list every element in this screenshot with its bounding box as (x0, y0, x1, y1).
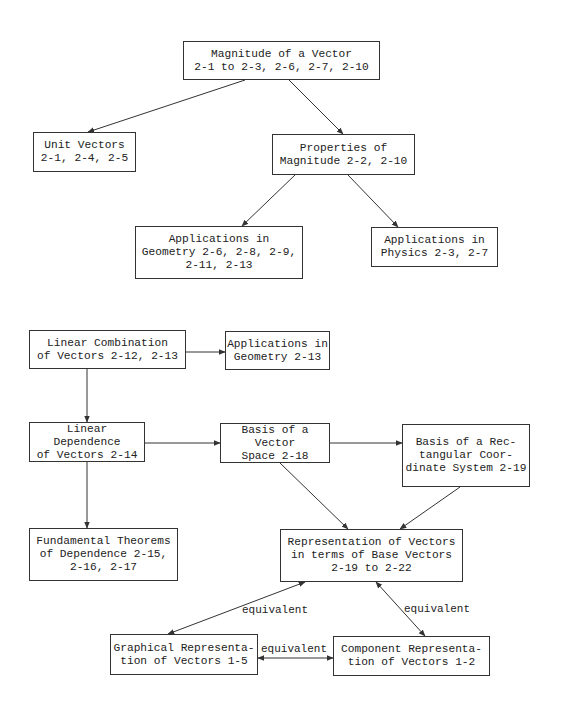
node-applications-geometry-2: Applications in Geometry 2-13 (225, 331, 330, 370)
edge-label-graphical-component: equivalent (261, 643, 327, 655)
node-linear-dependence: Linear Dependence of Vectors 2-14 (29, 422, 145, 462)
node-applications-physics: Applications in Physics 2-3, 2-7 (371, 227, 498, 267)
node-properties-magnitude: Properties of Magnitude 2-2, 2-10 (272, 134, 415, 175)
node-unit-vectors: Unit Vectors 2-1, 2-4, 2-5 (33, 132, 136, 172)
edge-label-component-representation: equivalent (404, 603, 470, 615)
node-basis-rectangular: Basis of a Rec- tangular Coor- dinate Sy… (402, 424, 530, 487)
node-applications-geometry-1: Applications in Geometry 2-6, 2-8, 2-9, … (135, 226, 303, 279)
edge-magnitude-to-unit-vectors (88, 80, 245, 132)
node-fundamental-theorems: Fundamental Theorems of Dependence 2-15,… (29, 528, 178, 581)
node-linear-combination: Linear Combination of Vectors 2-12, 2-13 (29, 330, 186, 369)
node-graphical-representation: Graphical Representa- tion of Vectors 1-… (110, 634, 258, 675)
edge-label-graphical-representation: equivalent (242, 604, 308, 616)
node-representation-base: Representation of Vectors in terms of Ba… (280, 529, 463, 582)
edge-basis-vector-space-to-representation (280, 463, 348, 529)
node-component-representation: Component Representa- tion of Vectors 1-… (333, 636, 490, 676)
edge-basis-rectangular-to-representation (400, 487, 460, 529)
edge-magnitude-to-properties (289, 80, 343, 134)
node-magnitude: Magnitude of a Vector 2-1 to 2-3, 2-6, 2… (183, 41, 380, 80)
edge-properties-to-applications-physics (348, 175, 398, 227)
edge-properties-to-applications-geometry (242, 175, 295, 226)
node-basis-vector-space: Basis of a Vector Space 2-18 (220, 423, 330, 463)
